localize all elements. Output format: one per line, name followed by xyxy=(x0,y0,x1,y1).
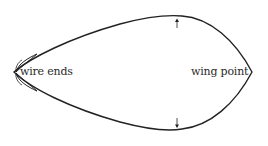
label-wing-point: wing point xyxy=(191,65,248,78)
arrow-up-icon xyxy=(175,19,179,29)
label-wire-ends: wire ends xyxy=(20,65,73,78)
arrow-down-icon xyxy=(175,118,179,128)
